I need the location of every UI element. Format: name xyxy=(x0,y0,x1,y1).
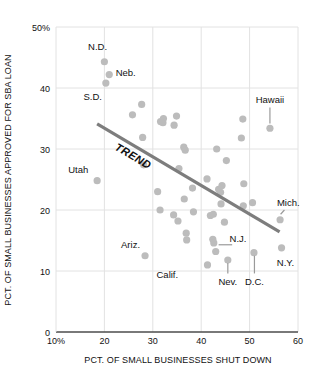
point-annotation-label: Hawaii xyxy=(256,94,285,105)
y-tick-label: 50% xyxy=(32,23,50,33)
data-point xyxy=(210,239,217,246)
data-point xyxy=(138,101,145,108)
data-point xyxy=(221,219,228,226)
y-tick-label: 0 xyxy=(45,328,50,338)
data-point xyxy=(106,71,113,78)
point-annotation-label: N.J. xyxy=(230,233,247,244)
annotation-leaders xyxy=(219,108,285,274)
data-point xyxy=(159,119,166,126)
point-annotation-label: Mich. xyxy=(277,197,300,208)
data-point xyxy=(156,206,163,213)
x-tick-label: 20 xyxy=(99,336,109,346)
point-annotation-label: Utah xyxy=(68,164,88,175)
data-point xyxy=(102,80,109,87)
data-point xyxy=(203,175,210,182)
data-point xyxy=(266,125,273,132)
trend-line xyxy=(97,124,279,232)
data-point xyxy=(174,217,181,224)
data-point xyxy=(170,211,177,218)
scatter-chart: 10%2030405060 01020304050% N.D.Neb.S.D.H… xyxy=(0,0,315,375)
point-annotation-label: N.Y. xyxy=(277,257,294,268)
data-point xyxy=(239,116,246,123)
data-point xyxy=(181,195,188,202)
x-tick-label: 50 xyxy=(245,336,255,346)
point-annotation-label: Ariz. xyxy=(121,239,140,250)
data-point xyxy=(204,261,211,268)
x-tick-label: 30 xyxy=(148,336,158,346)
point-annotation-label: S.D. xyxy=(84,91,102,102)
data-point xyxy=(190,208,197,215)
point-annotation-label: D.C. xyxy=(245,276,264,287)
x-tick-labels: 10%2030405060 xyxy=(47,336,303,346)
x-axis-title: PCT. OF SMALL BUSINESSES SHUT DOWN xyxy=(84,355,271,365)
data-point xyxy=(217,200,224,207)
data-point xyxy=(182,147,189,154)
data-point xyxy=(129,111,136,118)
data-point xyxy=(141,252,148,259)
data-point xyxy=(170,122,177,129)
point-annotation-label: Nev. xyxy=(218,276,237,287)
data-point xyxy=(183,230,190,237)
y-tick-label: 30 xyxy=(40,145,50,155)
x-tick-label: 60 xyxy=(293,336,303,346)
point-annotation-label: N.D. xyxy=(88,41,107,52)
annotation-leader-line xyxy=(281,210,285,214)
point-annotation-label: Neb. xyxy=(116,67,136,78)
data-point xyxy=(276,216,283,223)
annotation-labels: N.D.Neb.S.D.HawaiiUtahMich.Ariz.N.J.N.Y.… xyxy=(68,41,299,287)
data-point xyxy=(240,180,247,187)
data-point xyxy=(213,145,220,152)
data-point xyxy=(218,182,225,189)
data-point xyxy=(94,177,101,184)
data-points xyxy=(94,58,286,268)
data-point xyxy=(278,244,285,251)
data-point xyxy=(223,157,230,164)
data-point xyxy=(183,236,190,243)
data-point xyxy=(250,249,257,256)
y-tick-label: 10 xyxy=(40,267,50,277)
data-point xyxy=(212,248,219,255)
data-point xyxy=(249,199,256,206)
y-tick-labels: 01020304050% xyxy=(32,23,50,338)
data-point xyxy=(154,188,161,195)
trend-line-path xyxy=(97,124,279,232)
data-point xyxy=(224,256,231,263)
x-tick-label: 10% xyxy=(47,336,65,346)
data-point xyxy=(210,211,217,218)
point-annotation-label: Calif. xyxy=(156,269,178,280)
y-axis-title: PCT. OF SMALL BUSINESSES APPROVED FOR SB… xyxy=(3,54,13,305)
chart-canvas: 10%2030405060 01020304050% N.D.Neb.S.D.H… xyxy=(0,0,315,375)
y-tick-label: 20 xyxy=(40,206,50,216)
data-point xyxy=(238,134,245,141)
y-tick-label: 40 xyxy=(40,84,50,94)
data-point xyxy=(173,112,180,119)
data-point xyxy=(139,134,146,141)
data-point xyxy=(189,184,196,191)
data-point xyxy=(101,58,108,65)
x-tick-label: 40 xyxy=(196,336,206,346)
